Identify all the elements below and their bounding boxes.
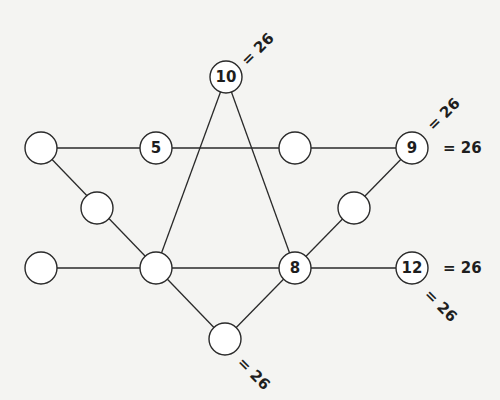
node-value: 5 xyxy=(139,131,173,165)
node-value: 12 xyxy=(395,251,429,285)
magic-hexagram-diagram: 1059812= 26= 26= 26= 26= 26= 26 xyxy=(0,0,500,400)
edge-line xyxy=(41,148,225,339)
node-value: 9 xyxy=(395,131,429,165)
line-sum-label: = 26 xyxy=(443,139,482,157)
node-value xyxy=(80,191,114,225)
node-value: 8 xyxy=(278,251,312,285)
node-value xyxy=(24,131,58,165)
edge-line xyxy=(225,148,412,339)
line-sum-label: = 26 xyxy=(443,259,482,277)
node-value xyxy=(208,322,242,356)
node-value xyxy=(24,251,58,285)
node-value xyxy=(278,131,312,165)
edge-line xyxy=(226,77,295,268)
node-value xyxy=(337,191,371,225)
node-value xyxy=(139,251,173,285)
edge-line xyxy=(156,77,226,268)
node-value: 10 xyxy=(209,60,243,94)
